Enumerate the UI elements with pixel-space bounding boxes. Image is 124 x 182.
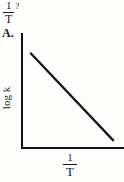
x-axis-fraction-numerator: 1	[65, 152, 75, 163]
x-axis-label: 1 T	[63, 152, 77, 178]
arrhenius-plot: log k 1 T	[0, 0, 124, 182]
x-axis-fraction-denominator: T	[64, 165, 76, 178]
data-series-line	[30, 53, 113, 141]
trend-line-svg	[21, 33, 124, 149]
x-axis-fraction: 1 T	[63, 152, 77, 178]
y-axis-label: log k	[0, 76, 12, 120]
